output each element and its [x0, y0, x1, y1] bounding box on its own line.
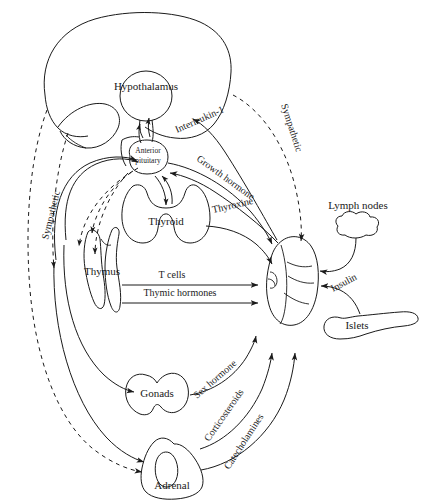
pituitary-hypothalamus-arrow: [140, 124, 143, 138]
corticosteroids-label: Corticosteroids: [202, 387, 246, 443]
thyroxine-label: Thyroxine: [211, 195, 255, 215]
lymph-nodes-label: Lymph nodes: [328, 199, 388, 211]
thymic-hormones-label: Thymic hormones: [143, 287, 216, 298]
catecholamines-label: Catecholamines: [221, 411, 265, 471]
lymph-nodes-organ: [336, 212, 379, 238]
anterior-pituitary-label-line2: pituitary: [135, 156, 161, 165]
pituitary-adrenal-axis: [54, 262, 144, 462]
islets-organ: [324, 312, 418, 339]
islets-label: Islets: [345, 319, 368, 331]
thymus-label: Thymus: [84, 265, 120, 277]
thyroxine-arrow: [206, 226, 272, 264]
anterior-pituitary-label-line1: Anterior: [135, 146, 161, 155]
pituitary-thyroid-arrow: [155, 176, 166, 205]
gonads-label: Gonads: [140, 387, 174, 399]
lymph-spleen-arrow: [320, 238, 356, 272]
spleen-organ: [267, 237, 319, 326]
thyroid-organ: [122, 185, 210, 243]
t-cells-label: T cells: [159, 269, 186, 280]
adrenal-label: Adrenal: [154, 479, 189, 491]
neuroendocrine-immune-diagram: Hypothalamus Anterior pituitary Thyroid …: [0, 0, 424, 504]
dashed-feedback-thymus-a: [92, 168, 138, 233]
thyroid-label: Thyroid: [148, 215, 184, 227]
insulin-label: Insulin: [329, 271, 359, 294]
thymus-pituitary-feedback: [54, 157, 136, 260]
sympathetic-left-label: Sympathetic: [39, 189, 62, 241]
gonads-pituitary-feedback: [65, 159, 138, 240]
hypothalamus-label: Hypothalamus: [114, 80, 178, 92]
sympathetic-right-label: Sympathetic: [279, 102, 305, 153]
